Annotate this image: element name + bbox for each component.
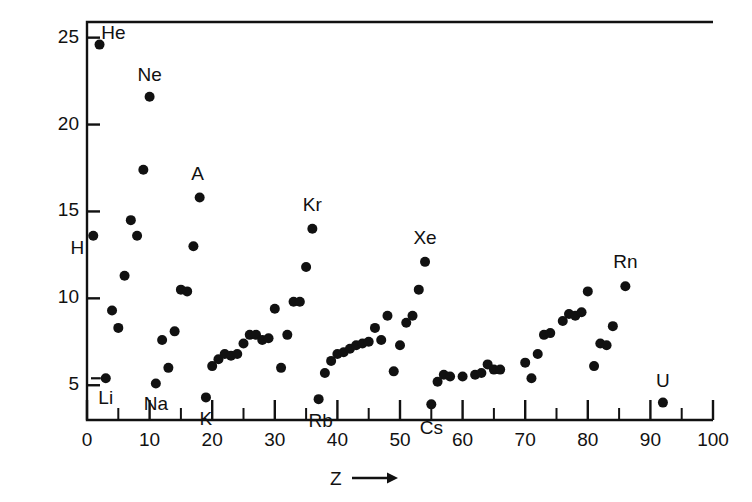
y-tick-label: 5	[33, 373, 79, 395]
element-label-u: U	[640, 370, 686, 392]
x-tick-label: 20	[182, 429, 242, 451]
x-tick-label: 40	[307, 429, 367, 451]
element-label-kr: Kr	[289, 194, 335, 216]
x-tick-label: 0	[57, 429, 117, 451]
x-tick-label: 10	[120, 429, 180, 451]
x-tick-label: 70	[495, 429, 555, 451]
element-label-a: A	[175, 163, 221, 185]
axis-frame	[87, 22, 713, 420]
x-axis-arrow	[352, 473, 398, 484]
x-tick-label: 80	[558, 429, 618, 451]
y-tick-label: 15	[33, 199, 79, 221]
element-label-rb: Rb	[298, 410, 344, 432]
axis-ticks	[87, 38, 713, 420]
x-axis-title-text: Z	[330, 468, 342, 489]
element-label-cs: Cs	[408, 417, 454, 439]
element-label-na: Na	[133, 393, 179, 415]
element-label-he: He	[91, 22, 137, 44]
x-tick-label: 30	[245, 429, 305, 451]
x-tick-label: 90	[620, 429, 680, 451]
element-label-k: K	[183, 408, 229, 430]
ionization-energy-chart: Ionization Energy, eV 510152025 01020304…	[0, 0, 752, 502]
data-points	[88, 40, 668, 410]
y-tick-label: 10	[33, 286, 79, 308]
x-tick-label: 100	[683, 429, 743, 451]
y-tick-label: 25	[33, 26, 79, 48]
x-axis-title: Z	[330, 468, 342, 490]
element-label-rn: Rn	[602, 251, 648, 273]
element-label-h: H	[54, 237, 100, 259]
element-label-li: Li	[83, 387, 129, 409]
y-tick-label: 20	[33, 113, 79, 135]
element-label-ne: Ne	[127, 64, 173, 86]
element-label-xe: Xe	[402, 227, 448, 249]
